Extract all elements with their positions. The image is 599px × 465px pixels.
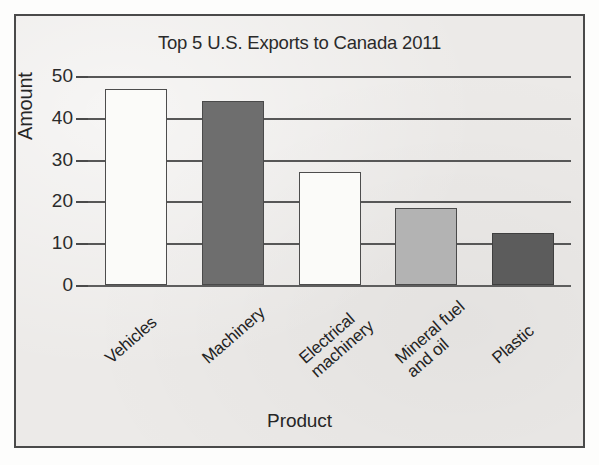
- x-tick-label-electrical-machinery: Electricalmachinery: [296, 304, 378, 382]
- y-axis-title: Amount: [14, 72, 37, 140]
- y-tick-mark-0: [76, 285, 88, 287]
- x-tick-label-machinery: Machinery: [199, 304, 269, 368]
- y-tick-label-0: 0: [62, 274, 73, 296]
- gridline-50: [88, 76, 571, 78]
- bar-machinery: [202, 101, 264, 285]
- x-tick-label-line1: Plastic: [488, 321, 537, 367]
- x-tick-label-mineral-fuel-and-oil: Mineral fueland oil: [392, 298, 480, 382]
- axis-baseline: [88, 285, 571, 287]
- x-tick-label-plastic: Plastic: [489, 322, 538, 368]
- y-tick-label-40: 40: [52, 106, 73, 128]
- y-tick-mark-20: [76, 201, 88, 203]
- plot-area: 01020304050 VehiclesMachineryElectricalm…: [88, 76, 571, 285]
- y-tick-label-10: 10: [52, 232, 73, 254]
- y-tick-label-50: 50: [52, 65, 73, 87]
- y-tick-mark-30: [76, 160, 88, 162]
- x-tick-label-line1: Vehicles: [102, 313, 161, 368]
- bar-mineral-fuel-and-oil: [395, 208, 457, 285]
- bar-vehicles: [105, 89, 167, 285]
- x-axis-title: Product: [16, 410, 583, 432]
- y-tick-label-20: 20: [52, 190, 73, 212]
- chart-title: Top 5 U.S. Exports to Canada 2011: [16, 32, 583, 54]
- x-tick-label-line1: Machinery: [198, 303, 268, 368]
- y-tick-label-30: 30: [52, 148, 73, 170]
- figure-frame: Top 5 U.S. Exports to Canada 2011 Amount…: [14, 14, 585, 448]
- y-tick-mark-40: [76, 118, 88, 120]
- x-tick-label-vehicles: Vehicles: [102, 314, 161, 368]
- y-tick-mark-50: [76, 76, 88, 78]
- bar-plastic: [492, 233, 554, 285]
- bar-electrical-machinery: [299, 172, 361, 285]
- y-tick-mark-10: [76, 243, 88, 245]
